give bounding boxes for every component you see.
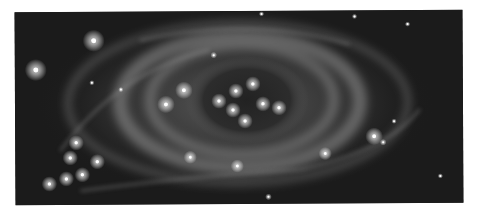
star bbox=[81, 173, 85, 177]
star bbox=[324, 152, 327, 155]
star bbox=[261, 102, 265, 106]
star bbox=[267, 196, 269, 198]
star bbox=[261, 13, 263, 15]
star bbox=[164, 102, 168, 106]
star bbox=[393, 120, 395, 122]
star bbox=[236, 165, 239, 168]
star bbox=[182, 88, 186, 92]
star bbox=[231, 108, 235, 112]
star bbox=[439, 175, 441, 177]
star bbox=[372, 134, 376, 138]
star bbox=[69, 156, 73, 160]
star bbox=[354, 15, 356, 17]
star bbox=[189, 156, 192, 159]
star bbox=[217, 99, 221, 103]
star bbox=[382, 141, 384, 143]
star bbox=[251, 82, 255, 86]
star bbox=[234, 89, 238, 93]
star bbox=[33, 68, 38, 73]
star bbox=[91, 82, 93, 84]
star bbox=[243, 119, 247, 123]
star bbox=[74, 141, 78, 145]
star bbox=[91, 38, 96, 43]
star bbox=[65, 177, 69, 181]
star bbox=[96, 160, 100, 164]
star bbox=[213, 54, 215, 56]
nebula-photograph bbox=[14, 10, 463, 205]
star bbox=[120, 89, 122, 91]
nebula-image bbox=[14, 10, 463, 205]
star bbox=[407, 23, 409, 25]
star bbox=[277, 106, 281, 110]
star bbox=[48, 182, 52, 186]
